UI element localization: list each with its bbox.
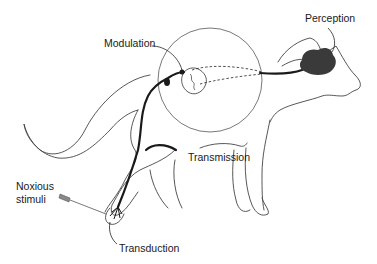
syringe-icon xyxy=(59,194,106,214)
label-noxious-stimuli-line2: stimuli xyxy=(16,193,46,205)
label-transmission: Transmission xyxy=(188,151,250,163)
label-modulation: Modulation xyxy=(104,37,155,49)
pain-pathway-diagram: Perception Modulation Transmission Noxio… xyxy=(0,0,377,264)
label-transduction: Transduction xyxy=(119,242,179,254)
cat-tail xyxy=(24,75,150,158)
synapse-dot xyxy=(180,70,185,75)
cat-illustration xyxy=(0,0,377,264)
label-noxious-stimuli-line1: Noxious xyxy=(16,180,54,192)
transduction-leader xyxy=(109,222,117,244)
afferent-nerve-fiber xyxy=(118,72,184,207)
spinal-cord-magnification-circle xyxy=(158,28,262,132)
perception-leader xyxy=(328,28,335,52)
label-perception: Perception xyxy=(305,12,355,24)
brain xyxy=(300,48,336,75)
modulation-leader xyxy=(152,46,182,70)
ascending-pathway-dashed xyxy=(192,66,262,72)
dorsal-root-ganglion xyxy=(164,78,170,86)
spinal-cord-cross-section xyxy=(182,68,207,94)
